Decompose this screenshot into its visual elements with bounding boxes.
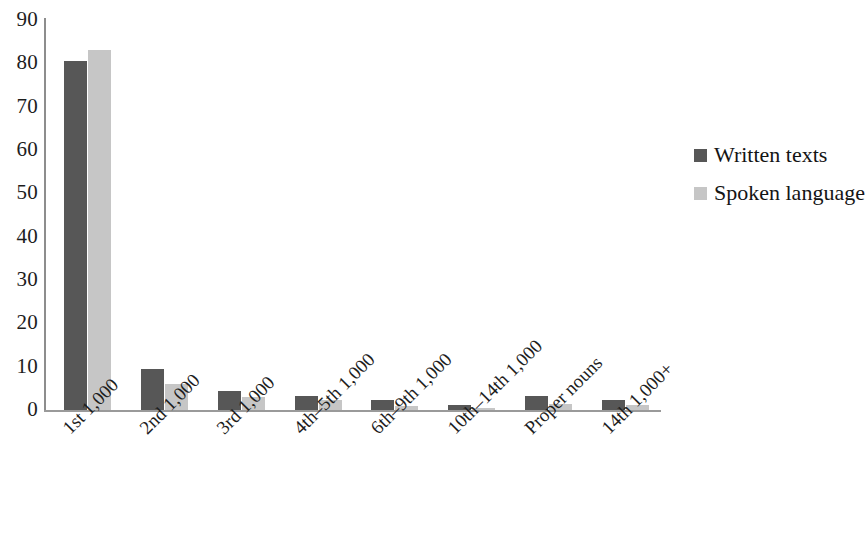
y-axis-tick-label: 30 xyxy=(0,269,38,290)
bar-group xyxy=(218,20,265,410)
x-axis-line xyxy=(44,410,661,412)
y-axis-tick-label: 10 xyxy=(0,356,38,377)
chart-legend: Written textsSpoken language xyxy=(694,136,862,212)
bar-chart: 9080706050403020100 1st 1,0002nd 1,0003r… xyxy=(0,0,865,534)
bar-written-texts xyxy=(64,61,87,410)
y-axis-tick-label: 20 xyxy=(0,312,38,333)
bar-group xyxy=(141,20,188,410)
legend-item[interactable]: Written texts xyxy=(694,136,862,174)
y-axis-tick-label: 40 xyxy=(0,226,38,247)
y-axis-tick-label: 0 xyxy=(0,399,38,420)
bar-group xyxy=(602,20,649,410)
y-axis-tick-labels: 9080706050403020100 xyxy=(0,0,38,534)
y-axis-tick-label: 50 xyxy=(0,182,38,203)
y-axis-tick-label: 90 xyxy=(0,9,38,30)
bar-group xyxy=(371,20,418,410)
legend-label: Written texts xyxy=(714,143,827,167)
plot-area xyxy=(45,20,660,410)
bar-group xyxy=(64,20,111,410)
bar-group xyxy=(295,20,342,410)
y-axis-tick-label: 70 xyxy=(0,96,38,117)
legend-swatch-icon xyxy=(694,149,707,162)
legend-label: Spoken language xyxy=(714,181,865,205)
bar-spoken-language xyxy=(88,50,111,410)
legend-swatch-icon xyxy=(694,187,707,200)
y-axis-tick-label: 60 xyxy=(0,139,38,160)
legend-item[interactable]: Spoken language xyxy=(694,174,862,212)
bar-group xyxy=(448,20,495,410)
y-axis-tick-label: 80 xyxy=(0,52,38,73)
